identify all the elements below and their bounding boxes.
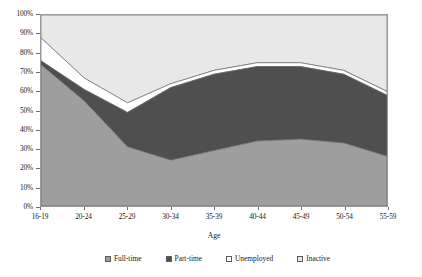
legend-label: Unemployed [235,255,273,263]
x-tick-label: 20-24 [75,212,92,221]
x-tick-mark [40,207,41,210]
y-tick-label: 20% [20,164,33,172]
x-tick-mark [301,207,302,210]
x-tick-mark [388,207,389,210]
legend-label: Inactive [306,255,330,263]
x-tick-mark [345,207,346,210]
plot-area [40,14,388,207]
legend-item-part-time[interactable]: Part-time [166,255,203,263]
y-tick-label: 10% [20,184,33,192]
x-tick-label: 30-34 [162,212,179,221]
y-tick-label: 30% [20,145,33,153]
x-tick-label: 45-49 [293,212,310,221]
legend-swatch-icon [166,256,172,262]
legend-label: Full-time [114,255,142,263]
x-tick-label: 35-39 [206,212,223,221]
x-tick-mark [214,207,215,210]
y-tick-label: 40% [20,126,33,134]
y-tick-label: 0% [23,203,33,211]
y-tick-label: 100% [16,10,33,18]
y-tick-label: 60% [20,87,33,95]
x-tick-label: 55-59 [380,212,397,221]
chart-legend: Full-timePart-timeUnemployedInactive [40,255,422,263]
legend-swatch-icon [105,256,111,262]
legend-item-inactive[interactable]: Inactive [297,255,330,263]
legend-item-unemployed[interactable]: Unemployed [226,255,273,263]
y-tick-label: 70% [20,68,33,76]
x-axis: 16-1920-2425-2930-3435-3940-4445-4950-54… [40,207,388,229]
x-axis-title: Age [40,231,388,240]
series-svg [41,15,387,206]
stacked-area-chart: 0%10%20%30%40%50%60%70%80%90%100% 16-192… [0,0,422,277]
x-tick-label: 40-44 [249,212,266,221]
x-tick-label: 16-19 [32,212,49,221]
legend-swatch-icon [226,256,232,262]
x-tick-label: 50-54 [336,212,353,221]
y-tick-label: 90% [20,29,33,37]
y-tick-label: 80% [20,49,33,57]
y-tick-label: 50% [20,107,33,115]
legend-swatch-icon [297,256,303,262]
legend-label: Part-time [175,255,203,263]
legend-item-full-time[interactable]: Full-time [105,255,142,263]
x-tick-mark [171,207,172,210]
x-tick-mark [127,207,128,210]
x-tick-mark [84,207,85,210]
y-axis: 0%10%20%30%40%50%60%70%80%90%100% [0,0,40,215]
x-tick-mark [258,207,259,210]
x-tick-label: 25-29 [119,212,136,221]
